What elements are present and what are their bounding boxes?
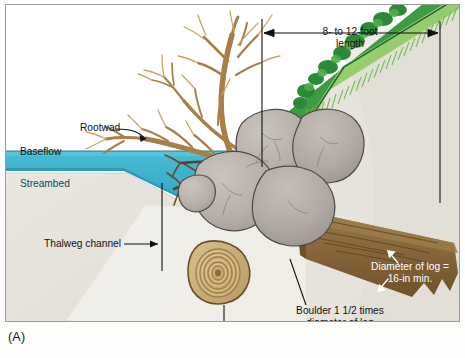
label-boulder-size-line1: Boulder 1 1/2 times (296, 305, 384, 316)
label-log-diameter-line1: Diameter of log = (371, 261, 449, 272)
figure-caption: (A) (8, 330, 25, 344)
label-length-line1: 8- to 12-foot (323, 26, 378, 37)
illustration-frame: Rootwad Baseflow Streambed Thalweg chann… (5, 4, 460, 322)
label-boulder-size: Boulder 1 1/2 times diameter of log (278, 305, 402, 322)
label-log-diameter-line2: 16-in min. (388, 273, 433, 284)
label-length-dimension: 8- to 12-foot length (304, 26, 396, 49)
label-rootwad: Rootwad (80, 122, 120, 134)
label-length-line2: length (336, 38, 364, 49)
label-baseflow: Baseflow (20, 146, 61, 158)
figure-container: Rootwad Baseflow Streambed Thalweg chann… (0, 0, 465, 358)
label-thalweg-channel: Thalweg channel (44, 238, 121, 250)
label-log-diameter: Diameter of log = 16-in min. (358, 261, 460, 284)
footer-log-end (188, 241, 250, 304)
label-streambed: Streambed (20, 178, 70, 190)
label-boulder-size-line2: diameter of log (306, 317, 373, 323)
